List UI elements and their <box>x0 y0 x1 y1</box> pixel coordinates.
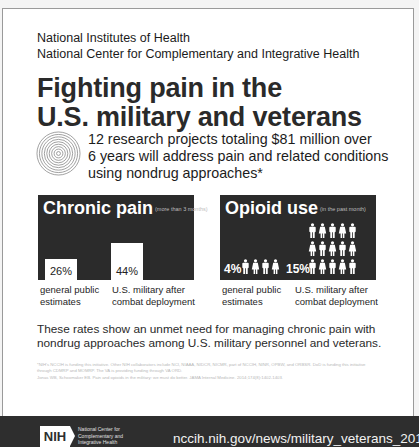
footer-bar: NIH National Center for Complementary an… <box>0 416 419 447</box>
person-icon <box>318 241 327 256</box>
page-title: Fighting pain in the U.S. military and v… <box>37 74 362 132</box>
summary-line-1: 12 research projects totaling $81 millio… <box>88 131 388 148</box>
person-icon <box>318 223 327 238</box>
label-line: combat deployment <box>295 296 378 308</box>
opioid-use-title: Opioid use(in the past month) <box>225 198 366 219</box>
summary-line-3: using nondrug approaches* <box>88 165 388 182</box>
person-icon <box>328 259 337 274</box>
footnotes: *NIH's NCCIH is funding this initiative.… <box>37 362 377 383</box>
opioid-general-value: 4% <box>224 262 241 276</box>
bar-military: 44% <box>111 243 143 280</box>
chronic-label-general: general public estimates <box>40 284 99 308</box>
person-icon <box>308 241 317 256</box>
org-line-nccih: National Center for Complementary and In… <box>37 46 359 62</box>
concentric-circles-icon <box>36 131 81 176</box>
opioid-use-heading: Opioid use <box>225 198 318 218</box>
citation: Jonas WB, Schoomaker EB. Pain and opioid… <box>37 375 377 381</box>
label-line: U.S. military after <box>295 284 378 296</box>
person-icon <box>318 259 327 274</box>
person-icon <box>338 241 347 256</box>
label-line: estimates <box>40 296 99 308</box>
person-icon <box>338 259 347 274</box>
rates-line-1: These rates show an unmet need for manag… <box>37 322 407 336</box>
bar-value: 26% <box>45 265 77 277</box>
person-icon <box>308 223 317 238</box>
person-icon <box>251 259 260 274</box>
chronic-pain-heading: Chronic pain <box>43 198 153 218</box>
label-line: general public <box>222 284 281 296</box>
rates-line-2: nondrug approaches among U.S. military p… <box>37 336 407 350</box>
nih-logo-chevron-icon <box>70 426 75 446</box>
chronic-label-military: U.S. military after combat deployment <box>112 284 195 308</box>
chronic-pain-panel: Chronic pain(more than 3 months) 26% 44% <box>38 195 194 280</box>
rates-statement: These rates show an unmet need for manag… <box>37 322 407 350</box>
label-line: combat deployment <box>112 296 195 308</box>
label-line: estimates <box>222 296 281 308</box>
chronic-pain-subtitle: (more than 3 months) <box>155 206 208 212</box>
label-line: general public <box>40 284 99 296</box>
person-icon <box>348 241 357 256</box>
label-line: U.S. military after <box>112 284 195 296</box>
summary-line-2: 6 years will address pain and related co… <box>88 148 388 165</box>
footer-url-link[interactable]: nccih.nih.gov/news/military_veterans_201… <box>173 431 419 446</box>
opioid-military-value: 15% <box>286 262 310 276</box>
title-line-1: Fighting pain in the <box>37 74 362 103</box>
opioid-use-panel: Opioid use(in the past month) 4% 15% <box>220 195 376 280</box>
person-icons-general <box>241 259 283 277</box>
opioid-use-subtitle: (in the past month) <box>320 206 366 212</box>
person-icons-military <box>308 223 360 277</box>
footer-org-line: National Center for <box>78 426 123 433</box>
title-line-2: U.S. military and veterans <box>37 103 362 132</box>
person-icon <box>338 223 347 238</box>
footer-org-line: Integrative Health <box>78 439 123 446</box>
chronic-pain-title: Chronic pain(more than 3 months) <box>43 198 208 219</box>
bar-value: 44% <box>111 265 143 277</box>
footer-org-name: National Center for Complementary and In… <box>78 426 123 446</box>
person-icon <box>328 223 337 238</box>
person-icon <box>348 259 357 274</box>
person-icon <box>271 259 280 274</box>
person-icon <box>308 259 317 274</box>
opioid-label-military: U.S. military after combat deployment <box>295 284 378 308</box>
person-icon <box>241 259 250 274</box>
summary-text: 12 research projects totaling $81 millio… <box>88 131 388 182</box>
bar-general-public: 26% <box>45 259 77 280</box>
person-icon <box>328 241 337 256</box>
org-line-nih: National Institutes of Health <box>37 30 359 46</box>
org-header: National Institutes of Health National C… <box>37 30 359 62</box>
funding-footnote: *NIH's NCCIH is funding this initiative.… <box>37 362 377 373</box>
nih-logo: NIH <box>40 426 70 447</box>
opioid-label-general: general public estimates <box>222 284 281 308</box>
person-icon <box>348 223 357 238</box>
person-icon <box>261 259 270 274</box>
